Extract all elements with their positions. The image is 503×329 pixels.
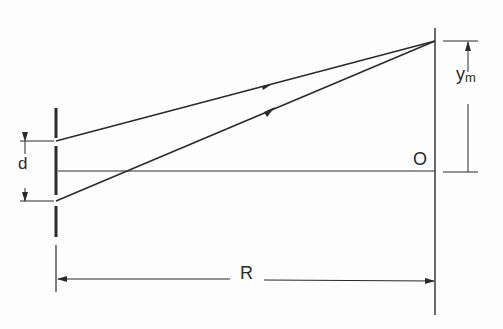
fringe-position-symbol: y	[456, 64, 465, 84]
ym-dimension	[443, 41, 478, 172]
fringe-position-subscript: m	[465, 70, 476, 85]
slit-separation-label: d	[18, 154, 27, 174]
ray-lower-arrow-icon	[264, 107, 275, 117]
diagram-canvas: d ym O R	[0, 0, 503, 329]
ray-lower	[56, 41, 435, 201]
fringe-position-label: ym	[456, 64, 476, 85]
screen-distance-label: R	[236, 263, 257, 284]
origin-label: O	[413, 149, 427, 170]
ray-upper	[56, 41, 435, 141]
